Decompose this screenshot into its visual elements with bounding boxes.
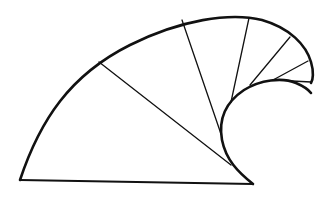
spokes-group (99, 18, 311, 165)
spoke-line-2 (182, 20, 221, 134)
base-line (20, 180, 253, 184)
inner-curve (221, 80, 311, 184)
spoke-line-1 (99, 62, 231, 165)
wave-spiral-diagram (0, 0, 336, 202)
outer-arc (20, 17, 313, 180)
spoke-line-4 (250, 37, 290, 85)
spoke-line-5 (273, 61, 308, 80)
